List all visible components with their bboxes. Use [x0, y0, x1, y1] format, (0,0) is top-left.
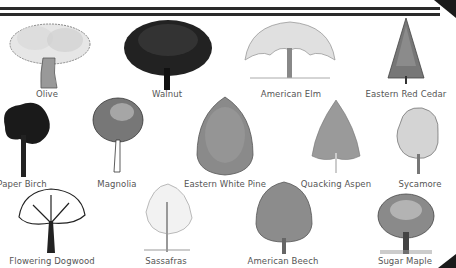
tree-label: Sassafras	[145, 256, 187, 266]
tree-walnut	[122, 18, 214, 90]
corner-ornament	[434, 0, 456, 18]
tree-flowering-dogwood	[15, 185, 87, 255]
american-beech-tree-icon	[254, 180, 314, 258]
top-rule	[0, 7, 440, 10]
tree-label: Walnut	[152, 89, 182, 99]
american-elm-tree-icon	[240, 20, 340, 82]
tree-label: Sycamore	[398, 179, 441, 189]
quacking-aspen-tree-icon	[310, 98, 362, 174]
walnut-tree-icon	[122, 18, 214, 90]
flowering-dogwood-tree-icon	[15, 185, 87, 255]
tree-label: Flowering Dogwood	[9, 256, 95, 266]
tree-eastern-red-cedar	[386, 16, 426, 86]
olive-tree-icon	[5, 18, 95, 90]
tree-label: American Beech	[248, 256, 319, 266]
tree-eastern-white-pine	[195, 95, 255, 177]
eastern-red-cedar-tree-icon	[386, 16, 426, 86]
sycamore-tree-icon	[394, 104, 442, 176]
tree-label: Magnolia	[97, 179, 136, 189]
tree-sycamore	[394, 104, 442, 176]
tree-paper-birch	[0, 97, 54, 179]
tree-sugar-maple	[376, 192, 436, 256]
tree-american-beech	[254, 180, 314, 258]
top-rule-2	[0, 13, 440, 16]
paper-birch-tree-icon	[0, 97, 54, 179]
sugar-maple-tree-icon	[376, 192, 436, 256]
tree-quacking-aspen	[310, 98, 362, 174]
magnolia-tree-icon	[90, 96, 146, 176]
tree-sassafras	[138, 182, 196, 254]
tree-olive	[5, 18, 95, 90]
tree-label: Sugar Maple	[378, 256, 432, 266]
corner-ornament-bottom	[438, 254, 456, 268]
tree-american-elm	[240, 20, 340, 82]
tree-label: Eastern Red Cedar	[366, 89, 447, 99]
eastern-white-pine-tree-icon	[195, 95, 255, 177]
tree-magnolia	[90, 96, 146, 176]
sassafras-tree-icon	[138, 182, 196, 254]
